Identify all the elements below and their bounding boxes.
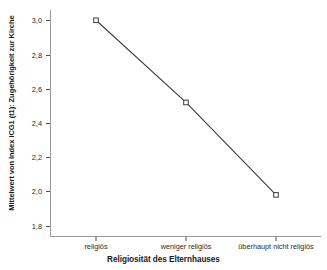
data-series-line [51,10,321,236]
line-chart: Mittelwert von Index iCG1 (t1): Zugehöri… [0,0,327,270]
x-axis-title: Religiosität des Elternhauses [0,255,327,264]
data-point-marker [184,100,189,105]
y-axis-tick-label: 3,0 [14,16,46,25]
y-axis-tick-labels: 3,02,82,62,42,22,01,8 [14,0,46,270]
x-axis-tick-label: weniger religiös [161,242,212,251]
x-axis-tick-mark [96,237,97,241]
plot-area [51,10,321,236]
x-axis-tick-mark [276,237,277,241]
y-axis-tick-label: 2,2 [14,153,46,162]
y-axis-tick-label: 2,8 [14,50,46,59]
data-point-marker [274,193,279,198]
y-axis-tick-label: 2,0 [14,187,46,196]
y-axis-tick-label: 2,4 [14,119,46,128]
x-axis-tick-labels: religiösweniger religiösüberhaupt nicht … [51,242,321,254]
y-axis-tick-label: 2,6 [14,84,46,93]
x-axis-tick-mark [186,237,187,241]
y-axis-tick-label: 1,8 [14,221,46,230]
x-axis-tick-label: religiös [84,242,107,251]
data-point-marker [94,18,99,23]
x-axis-tick-label: überhaupt nicht religiös [238,242,313,251]
data-line [96,20,276,195]
